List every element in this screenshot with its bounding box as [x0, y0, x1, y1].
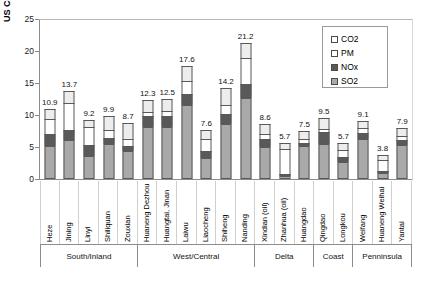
bar-segment-so2 — [377, 173, 388, 179]
legend-item-so2: SO2 — [331, 74, 387, 88]
x-axis-group-label: West/Central — [138, 245, 255, 267]
x-axis-category-label: Heze — [46, 224, 54, 242]
bar-segment-co2 — [240, 43, 251, 58]
x-axis-category-label: Jining — [65, 222, 73, 242]
stacked-bar[interactable] — [142, 100, 153, 179]
x-axis-category-label: Huaneng Dezhou — [143, 184, 151, 242]
legend-swatch-co2-icon — [331, 36, 338, 43]
bar-segment-co2 — [299, 131, 310, 139]
bar-segment-co2 — [142, 100, 153, 112]
x-axis-group-bands: South/InlandWest/CentralDeltaCoastPennin… — [40, 245, 412, 267]
bar-segment-nox — [83, 145, 94, 156]
x-axis-category-cell: Shiliquan — [99, 181, 119, 244]
bar-slot: 12.3 — [138, 19, 158, 179]
x-axis-category-cell: Huangdao — [295, 181, 315, 244]
bar-segment-nox — [260, 139, 271, 147]
stacked-bar[interactable] — [123, 123, 134, 179]
bar-segment-co2 — [162, 99, 173, 111]
x-axis-category-cell: Huangtai, Jinan — [157, 181, 177, 244]
bar-segment-pm — [83, 127, 94, 145]
bar-value-label: 13.7 — [62, 81, 78, 89]
bar-segment-co2 — [201, 130, 212, 139]
x-axis-category-label: Zouxian — [124, 215, 132, 242]
x-axis-category-label: Yantai — [398, 221, 406, 242]
bar-segment-pm — [201, 139, 212, 151]
bar-segment-so2 — [44, 146, 55, 179]
x-axis-group-label: Coast — [314, 245, 353, 267]
bar-value-label: 5.7 — [279, 133, 290, 141]
x-axis-category-label: Zhanhua (oil) — [280, 198, 288, 242]
bar-segment-so2 — [64, 140, 75, 179]
bar-value-label: 9.9 — [103, 106, 114, 114]
y-axis-tick-mark — [35, 147, 39, 148]
bar-segment-so2 — [240, 98, 251, 179]
x-axis-category-cell: Laiwu — [177, 181, 197, 244]
stacked-bar[interactable] — [377, 155, 388, 179]
stacked-bar[interactable] — [162, 99, 173, 179]
x-axis-category-label: Xindian (oil) — [261, 202, 269, 242]
plot-right-border — [412, 19, 413, 180]
bar-segment-co2 — [181, 66, 192, 81]
bar-segment-so2 — [299, 146, 310, 179]
x-axis-category-label: Shiliquan — [104, 211, 112, 242]
stacked-bar[interactable] — [397, 128, 408, 179]
legend-swatch-pm-icon — [331, 50, 338, 57]
bar-segment-pm — [240, 58, 251, 84]
stacked-bar[interactable] — [279, 143, 290, 179]
y-axis-tick-mark — [35, 51, 39, 52]
bar-value-label: 8.7 — [123, 113, 134, 121]
stacked-bar[interactable] — [64, 91, 75, 179]
y-axis-tick-label: 20 — [8, 47, 34, 56]
stacked-bar[interactable] — [181, 66, 192, 179]
stacked-bar[interactable] — [260, 124, 271, 179]
legend-swatch-so2-icon — [331, 78, 338, 85]
bar-segment-nox — [240, 84, 251, 99]
y-axis-tick-label: 15 — [8, 79, 34, 88]
stacked-bar[interactable] — [44, 109, 55, 179]
stacked-bar[interactable] — [318, 118, 329, 179]
bar-segment-pm — [64, 103, 75, 131]
bar-segment-co2 — [103, 116, 114, 130]
bar-segment-nox — [201, 151, 212, 158]
bar-value-label: 10.9 — [42, 99, 58, 107]
bar-value-label: 9.1 — [357, 111, 368, 119]
x-axis-category-cell: Yantai — [392, 181, 412, 244]
bar-segment-co2 — [83, 120, 94, 127]
bar-segment-so2 — [103, 144, 114, 179]
stacked-bar[interactable] — [338, 143, 349, 179]
chart-container: US Cents per kWh 0510152025 10.913.79.29… — [0, 0, 427, 289]
bar-segment-so2 — [142, 127, 153, 179]
bar-slot: 14.2 — [216, 19, 236, 179]
x-axis-category-cell: Huaneng Dezhou — [138, 181, 158, 244]
bar-segment-co2 — [220, 88, 231, 105]
bar-segment-so2 — [318, 144, 329, 179]
bar-value-label: 7.9 — [397, 118, 408, 126]
stacked-bar[interactable] — [83, 120, 94, 179]
legend-label-pm: PM — [341, 48, 354, 58]
bar-segment-nox — [162, 116, 173, 127]
bar-segment-co2 — [44, 109, 55, 119]
x-axis-category-cell: Xindian (oil) — [255, 181, 275, 244]
x-axis-group-label: Delta — [255, 245, 314, 267]
bar-segment-so2 — [162, 127, 173, 179]
legend-label-nox: NOx — [341, 62, 358, 72]
bar-segment-pm — [103, 130, 114, 138]
x-axis-category-label: Huaneng Weihai — [378, 187, 386, 242]
stacked-bar[interactable] — [220, 88, 231, 179]
bar-segment-nox — [318, 132, 329, 144]
stacked-bar[interactable] — [103, 116, 114, 179]
x-axis-category-label: Linyi — [84, 227, 92, 242]
x-axis-category-cell: Heze — [40, 181, 60, 244]
bar-segment-co2 — [318, 118, 329, 129]
bar-segment-so2 — [181, 105, 192, 179]
bar-value-label: 7.5 — [299, 121, 310, 129]
stacked-bar[interactable] — [240, 43, 251, 179]
stacked-bar[interactable] — [299, 131, 310, 179]
stacked-bar[interactable] — [358, 121, 369, 179]
legend-label-so2: SO2 — [341, 76, 358, 86]
bar-value-label: 14.2 — [218, 78, 234, 86]
x-axis-category-cell: Linyi — [79, 181, 99, 244]
x-axis-category-label: Longkou — [339, 213, 347, 242]
x-axis-category-cell: Jining — [60, 181, 80, 244]
stacked-bar[interactable] — [201, 130, 212, 179]
